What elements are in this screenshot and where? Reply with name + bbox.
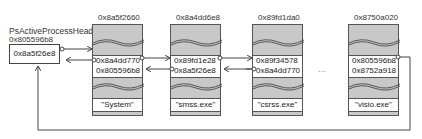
process-address: 0x89fd1da0 (258, 13, 300, 22)
process-name: "csrss.exe" (253, 98, 302, 112)
wave-icon (253, 37, 304, 47)
wave-icon (171, 37, 222, 47)
blink-value: 0x8752a918 (349, 66, 398, 76)
blink-value: 0x8a5f26e8 (171, 66, 220, 76)
process-block-smss: 0x89fd1e28 0x8a5f26e8 "smss.exe" (170, 24, 221, 116)
blink-value: 0x805596b8 (93, 66, 142, 76)
process-block-system: 0x8a4dd770 0x805596b8 "System" (92, 24, 143, 116)
process-address: 0x8a5f2660 (98, 13, 140, 22)
head-address: 0x805596b8 (9, 35, 53, 44)
process-name: "visio.exe" (349, 98, 398, 112)
head-pointer-box: 0x8a5f26e8 (9, 44, 60, 64)
ellipsis: ··· (318, 67, 326, 76)
wave-icon (349, 37, 400, 47)
head-value: 0x8a5f26e8 (14, 49, 56, 58)
wave-icon (253, 81, 304, 91)
process-address: 0x8a4dd6e8 (176, 13, 220, 22)
blink-value: 0x8a4dd770 (253, 66, 302, 76)
process-address: 0x8750a020 (354, 13, 398, 22)
flink-value: 0x89fd1e28 (171, 56, 220, 66)
process-name: "System" (93, 98, 142, 112)
flink-value: 0x8a4dd770 (93, 56, 142, 66)
flink-value: 0x89f34578 (253, 56, 302, 66)
process-name: "smss.exe" (171, 98, 220, 112)
wave-icon (93, 81, 144, 91)
wave-icon (93, 37, 144, 47)
wave-icon (171, 81, 222, 91)
wave-icon (349, 81, 400, 91)
process-block-visio: 0x805596b8 0x8752a918 "visio.exe" (348, 24, 399, 116)
process-block-csrss: 0x89f34578 0x8a4dd770 "csrss.exe" (252, 24, 303, 116)
flink-value: 0x805596b8 (349, 56, 398, 66)
